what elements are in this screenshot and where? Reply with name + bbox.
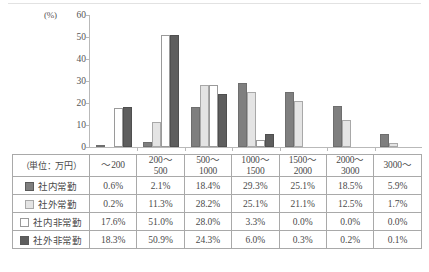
table-cell-1-3: 25.1% (232, 195, 279, 213)
legend-swatch-icon-1 (25, 200, 34, 209)
table-cell-3-4: 0.3% (279, 231, 326, 249)
bar-1-1 (152, 122, 161, 147)
plot-area (89, 15, 421, 148)
y-axis-tick-labels: 6050403020100 (52, 14, 86, 148)
bar-group-1 (137, 15, 184, 147)
bar-1-3 (247, 92, 256, 147)
column-header-line1: 3000～ (384, 160, 412, 170)
bar-1-5 (342, 120, 351, 148)
table-cell-0-1: 2.1% (137, 177, 184, 195)
x-axis-group-separator-6 (375, 147, 376, 151)
bar-0-0 (96, 145, 105, 147)
table-column-header-1: 200～500 (137, 155, 184, 177)
bar-group-0 (90, 15, 137, 147)
table-cell-1-4: 21.1% (279, 195, 326, 213)
table-column-header-6: 3000～ (374, 155, 421, 177)
table-cell-1-0: 0.2% (90, 195, 137, 213)
bar-0-2 (191, 107, 200, 147)
table-cell-0-5: 18.5% (326, 177, 373, 195)
x-axis-group-separator-5 (327, 147, 328, 151)
bar-group-bars (185, 15, 232, 147)
table-column-header-4: 1500～2000 (279, 155, 326, 177)
y-axis-tickmark-0 (86, 147, 90, 148)
column-header-line1: 200～ (149, 155, 172, 165)
column-header-line2: 1000 (185, 166, 231, 177)
column-header-line2: 1500 (232, 166, 278, 177)
bar-group-4 (280, 15, 327, 147)
bar-group-3 (232, 15, 279, 147)
bar-group-bars (137, 15, 184, 147)
x-axis-group-separator-4 (280, 147, 281, 151)
table-row: 社外非常勤18.3%50.9%24.3%6.0%0.3%0.2%0.1% (13, 231, 422, 249)
column-header-line1: 2000～ (336, 155, 364, 165)
top-divider (8, 3, 421, 4)
bar-3-2 (218, 94, 227, 147)
bar-chart: (%) 6050403020100 (0, 6, 429, 154)
chart-figure: (%) 6050403020100 （単位：万円） ～200200～500500… (0, 0, 429, 272)
bar-0-4 (285, 92, 294, 147)
table-cell-3-0: 18.3% (90, 231, 137, 249)
table-cell-0-6: 5.9% (374, 177, 421, 195)
column-header-line1: 500～ (196, 155, 219, 165)
y-axis-tick-10: 10 (77, 120, 87, 130)
table-column-header-2: 500～1000 (184, 155, 231, 177)
bar-0-1 (143, 142, 152, 147)
table-cell-3-6: 0.1% (374, 231, 421, 249)
bar-group-bars (327, 15, 374, 147)
bar-2-3 (256, 140, 265, 147)
table-column-header-5: 2000～3000 (326, 155, 373, 177)
bar-group-bars (375, 15, 422, 147)
x-axis-group-separator-2 (185, 147, 186, 151)
legend-row-label-3: 社外非常勤 (13, 231, 90, 249)
table-cell-0-2: 18.4% (184, 177, 231, 195)
bar-1-4 (294, 101, 303, 147)
bar-1-2 (200, 85, 209, 147)
column-header-line1: 1000～ (241, 155, 269, 165)
table-column-header-0: ～200 (90, 155, 137, 177)
legend-swatch-icon-0 (25, 182, 34, 191)
bar-group-bars (90, 15, 137, 147)
column-header-line1: ～200 (101, 160, 124, 170)
table-cell-2-2: 28.0% (184, 213, 231, 231)
table-cell-2-3: 3.3% (232, 213, 279, 231)
table-cell-2-6: 0.0% (374, 213, 421, 231)
bar-2-1 (161, 35, 170, 147)
bar-3-0 (123, 107, 132, 147)
table-corner-unit-label: （単位：万円） (13, 155, 90, 177)
table-cell-2-1: 51.0% (137, 213, 184, 231)
legend-row-label-0: 社内常勤 (13, 177, 90, 195)
series-name: 社内非常勤 (33, 218, 82, 228)
table-cell-2-4: 0.0% (279, 213, 326, 231)
table-cell-3-1: 50.9% (137, 231, 184, 249)
table-header-row: （単位：万円） ～200200～500500～10001000～15001500… (13, 155, 422, 177)
table-cell-1-2: 28.2% (184, 195, 231, 213)
legend-row-label-1: 社外常勤 (13, 195, 90, 213)
column-header-line1: 1500～ (289, 155, 317, 165)
bar-2-0 (114, 108, 123, 147)
bar-group-5 (327, 15, 374, 147)
table-cell-3-5: 0.2% (326, 231, 373, 249)
column-header-line2: 2000 (280, 166, 326, 177)
legend-row-label-2: 社内非常勤 (13, 213, 90, 231)
table-cell-1-1: 11.3% (137, 195, 184, 213)
legend-swatch-icon-3 (20, 236, 29, 245)
table-cell-3-3: 6.0% (232, 231, 279, 249)
table-cell-0-3: 29.3% (232, 177, 279, 195)
y-axis-tick-40: 40 (77, 54, 87, 64)
column-header-line2: 500 (137, 166, 183, 177)
bar-group-6 (375, 15, 422, 147)
bar-group-bars (232, 15, 279, 147)
table-cell-0-0: 0.6% (90, 177, 137, 195)
column-header-line2: 3000 (327, 166, 373, 177)
table-body: 社内常勤0.6%2.1%18.4%29.3%25.1%18.5%5.9%社外常勤… (13, 177, 422, 249)
table-row: 社内常勤0.6%2.1%18.4%29.3%25.1%18.5%5.9% (13, 177, 422, 195)
series-name: 社外非常勤 (33, 236, 82, 246)
table-cell-1-5: 12.5% (326, 195, 373, 213)
table-row: 社内非常勤17.6%51.0%28.0%3.3%0.0%0.0%0.0% (13, 213, 422, 231)
table-row: 社外常勤0.2%11.3%28.2%25.1%21.1%12.5%1.7% (13, 195, 422, 213)
bar-3-3 (265, 134, 274, 147)
table-cell-1-6: 1.7% (374, 195, 421, 213)
y-axis-tick-20: 20 (77, 98, 87, 108)
data-table-wrapper: （単位：万円） ～200200～500500～10001000～15001500… (12, 154, 421, 249)
bar-2-2 (209, 85, 218, 147)
